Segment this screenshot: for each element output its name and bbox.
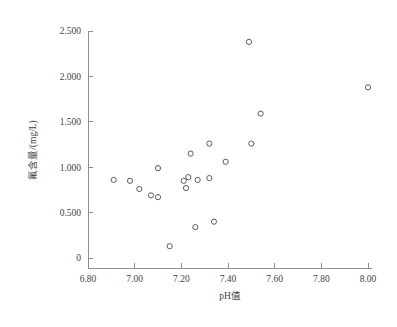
scatter-chart-figure: 00.5001.0001.5002.0002.500 6.807.007.207… — [0, 0, 397, 327]
y-tick-label: 0 — [76, 253, 81, 263]
x-tick-label: 7.00 — [126, 274, 143, 284]
data-point — [127, 178, 132, 183]
x-tick-label: 8.00 — [360, 274, 377, 284]
data-point — [111, 177, 116, 182]
data-point — [181, 178, 186, 183]
data-point — [148, 193, 153, 198]
y-axis-tick-group — [88, 31, 93, 258]
y-axis-tick-labels: 00.5001.0001.5002.0002.500 — [60, 26, 82, 263]
y-tick-label: 1.500 — [60, 117, 82, 127]
x-axis-tick-group — [88, 263, 368, 268]
x-tick-label: 7.40 — [220, 274, 237, 284]
data-point — [155, 195, 160, 200]
y-axis-title: 氟含量/(mg/L) — [27, 120, 39, 180]
y-tick-label: 1.000 — [60, 163, 82, 173]
data-point — [183, 185, 188, 190]
data-point — [195, 177, 200, 182]
data-point-group — [111, 39, 371, 248]
data-point — [155, 166, 160, 171]
data-point — [167, 244, 172, 249]
data-point — [188, 151, 193, 156]
data-point — [246, 39, 251, 44]
data-point — [137, 186, 142, 191]
x-axis-title: pH值 — [219, 290, 241, 301]
y-tick-label: 2.000 — [60, 72, 82, 82]
data-point — [223, 159, 228, 164]
data-point — [207, 141, 212, 146]
y-tick-label: 2.500 — [60, 26, 82, 36]
data-point — [207, 175, 212, 180]
x-tick-label: 7.60 — [266, 274, 283, 284]
plot-area: 00.5001.0001.5002.0002.500 6.807.007.207… — [0, 0, 397, 327]
x-axis-tick-labels: 6.807.007.207.407.607.808.00 — [80, 274, 377, 284]
x-tick-label: 7.80 — [313, 274, 330, 284]
x-tick-label: 7.20 — [173, 274, 190, 284]
data-point — [193, 225, 198, 230]
x-tick-label: 6.80 — [80, 274, 97, 284]
data-point — [365, 85, 370, 90]
data-point — [211, 219, 216, 224]
data-point — [186, 175, 191, 180]
data-point — [258, 111, 263, 116]
data-point — [249, 141, 254, 146]
y-tick-label: 0.500 — [60, 208, 82, 218]
